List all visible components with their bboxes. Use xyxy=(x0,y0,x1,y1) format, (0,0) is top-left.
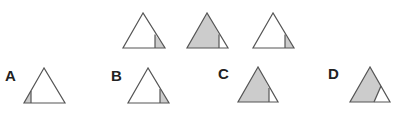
option-d-label: D xyxy=(328,66,339,81)
option-c-triangle[interactable] xyxy=(238,67,278,102)
sequence-triangle-1 xyxy=(123,13,165,48)
option-c-label: C xyxy=(218,66,229,81)
option-a-triangle[interactable] xyxy=(24,68,65,103)
puzzle-diagram xyxy=(0,0,403,114)
option-b-triangle[interactable] xyxy=(128,68,169,103)
option-a-label: A xyxy=(5,68,16,83)
option-b-label: B xyxy=(111,68,122,83)
sequence-triangle-3 xyxy=(253,13,294,48)
option-d-triangle[interactable] xyxy=(350,67,390,102)
sequence-triangle-2 xyxy=(187,13,228,48)
